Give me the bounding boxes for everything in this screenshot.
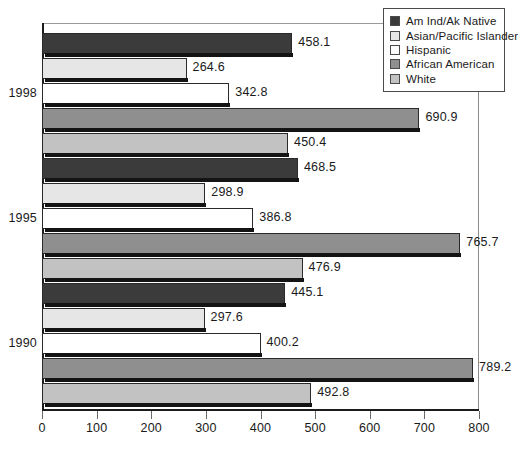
- x-tick-800: [479, 411, 480, 419]
- bar-group-1998-0: 458.1: [42, 33, 292, 54]
- x-tick-500: [315, 411, 316, 419]
- x-tick-label-400: 400: [250, 421, 271, 435]
- bar: [42, 233, 460, 254]
- bar-value-label: 445.1: [291, 285, 323, 299]
- bar: [42, 308, 205, 329]
- bar-value-label: 400.2: [267, 335, 299, 349]
- x-tick-700: [424, 411, 425, 419]
- bar: [42, 258, 303, 279]
- bar-group-1998-2: 342.8: [42, 83, 229, 104]
- bar-value-label: 476.9: [309, 260, 341, 274]
- group-label-1995: 1995: [0, 211, 37, 225]
- bar-group-1998-3: 690.9: [42, 108, 419, 129]
- legend-swatch-icon: [390, 45, 400, 55]
- bar: [42, 333, 261, 354]
- bar-value-label: 342.8: [235, 85, 267, 99]
- bar: [42, 108, 419, 129]
- bar-group-1990-2: 400.2: [42, 333, 261, 354]
- bar: [42, 383, 311, 404]
- bar-value-label: 458.1: [298, 35, 330, 49]
- bar-value-label: 386.8: [259, 210, 291, 224]
- bar-value-label: 297.6: [211, 310, 243, 324]
- x-tick-200: [151, 411, 152, 419]
- x-tick-100: [97, 411, 98, 419]
- x-tick-label-300: 300: [195, 421, 216, 435]
- bar: [42, 283, 285, 304]
- bar-value-label: 690.9: [425, 110, 457, 124]
- bar-value-label: 264.6: [193, 60, 225, 74]
- bar-group-1990-1: 297.6: [42, 308, 205, 329]
- legend-item-1: Asian/Pacific Islander: [390, 28, 499, 42]
- bar: [42, 133, 288, 154]
- bar-value-label: 492.8: [317, 385, 349, 399]
- legend-item-3: African American: [390, 57, 499, 71]
- bar: [42, 158, 298, 179]
- bar-value-label: 450.4: [294, 135, 326, 149]
- bar-group-1990-3: 789.2: [42, 358, 473, 379]
- group-label-1990: 1990: [0, 336, 37, 350]
- x-tick-400: [261, 411, 262, 419]
- legend-item-2: Hispanic: [390, 43, 499, 57]
- bar-group-1990-0: 445.1: [42, 283, 285, 304]
- bar: [42, 358, 473, 379]
- bar-group-1998-1: 264.6: [42, 58, 187, 79]
- legend-item-label: Hispanic: [406, 44, 451, 56]
- x-tick-label-200: 200: [141, 421, 162, 435]
- legend-item-label: Asian/Pacific Islander: [406, 30, 518, 42]
- bar: [42, 208, 253, 229]
- bar-group-1995-1: 298.9: [42, 183, 205, 204]
- x-tick-0: [42, 411, 43, 419]
- legend-item-label: Am Ind/Ak Native: [406, 15, 496, 27]
- legend-item-0: Am Ind/Ak Native: [390, 14, 499, 28]
- bar: [42, 33, 292, 54]
- x-tick-300: [206, 411, 207, 419]
- bar-value-label: 468.5: [304, 160, 336, 174]
- chart-legend: Am Ind/Ak NativeAsian/Pacific IslanderHi…: [383, 8, 505, 92]
- legend-item-4: White: [390, 72, 499, 86]
- bar-group-1995-4: 476.9: [42, 258, 303, 279]
- bar-value-label: 765.7: [466, 235, 498, 249]
- x-tick-label-600: 600: [359, 421, 380, 435]
- bar-group-1995-0: 468.5: [42, 158, 298, 179]
- bar-group-1990-4: 492.8: [42, 383, 311, 404]
- x-tick-label-700: 700: [414, 421, 435, 435]
- x-tick-label-100: 100: [86, 421, 107, 435]
- x-tick-label-500: 500: [304, 421, 325, 435]
- bar-group-1998-4: 450.4: [42, 133, 288, 154]
- x-tick-label-0: 0: [38, 421, 45, 435]
- bar-chart: 0100200300400500600700800 458.1264.6342.…: [0, 0, 521, 454]
- x-tick-label-800: 800: [468, 421, 489, 435]
- bar: [42, 58, 187, 79]
- legend-swatch-icon: [390, 16, 400, 26]
- bar-value-label: 298.9: [211, 185, 243, 199]
- bar-group-1995-2: 386.8: [42, 208, 253, 229]
- group-label-1998: 1998: [0, 86, 37, 100]
- legend-swatch-icon: [390, 31, 400, 41]
- bar-value-label: 789.2: [479, 360, 511, 374]
- legend-item-label: African American: [406, 58, 495, 70]
- bar-group-1995-3: 765.7: [42, 233, 460, 254]
- legend-item-label: White: [406, 73, 436, 85]
- x-tick-600: [370, 411, 371, 419]
- bar: [42, 83, 229, 104]
- legend-swatch-icon: [390, 74, 400, 84]
- legend-swatch-icon: [390, 59, 400, 69]
- bar: [42, 183, 205, 204]
